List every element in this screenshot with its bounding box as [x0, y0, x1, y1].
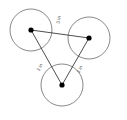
segment-left-side [31, 30, 62, 85]
segment-top-side [31, 30, 89, 38]
three-tangent-circles-figure: 3 in 3 in 3 in [0, 0, 127, 120]
label-top-side: 3 in [55, 15, 61, 24]
label-right-side: 3 in [76, 64, 84, 74]
center-dot-top-left [28, 27, 33, 32]
segment-right-side [62, 38, 89, 85]
label-left-side: 3 in [36, 62, 44, 72]
center-dot-bottom [59, 82, 64, 87]
geometry-diagram-canvas: 3 in 3 in 3 in [0, 0, 127, 120]
center-dot-top-right [86, 35, 91, 40]
